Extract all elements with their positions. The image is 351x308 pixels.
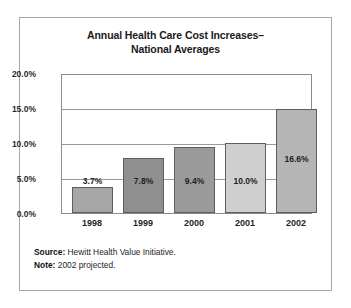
source-note: Source: Hewitt Health Value Initiative. [34,246,314,259]
y-axis-tick-5: 5.0% [0,174,36,184]
bar-2000[interactable]: 9.4% [174,147,215,213]
bar-value-label-1999: 7.8% [134,176,153,186]
bar-1998[interactable]: 3.7% [72,187,113,213]
bar-value-label-2001: 10.0% [233,176,257,186]
bar-value-label-1998: 3.7% [83,176,102,186]
bar-2002[interactable]: 16.6% [276,109,317,213]
x-axis-tick-2000: 2000 [184,218,204,228]
footnotes: Source: Hewitt Health Value Initiative. … [34,246,314,272]
y-axis-tick-0: 0.0% [0,209,36,219]
x-axis-tick-1999: 1999 [133,218,153,228]
projection-note: Note: 2002 projected. [34,259,314,272]
x-axis-tick-2001: 2001 [235,218,255,228]
x-axis-tick-2002: 2002 [286,218,306,228]
plot-area: 3.7% 7.8% 9.4% 10.0% 16.6% [61,74,312,214]
note-label: Note: [34,260,55,270]
bars-layer: 3.7% 7.8% 9.4% 10.0% 16.6% [62,75,311,213]
y-axis-tick-10: 10.0% [0,139,36,149]
bar-1999[interactable]: 7.8% [123,158,164,213]
source-text: Hewitt Health Value Initiative. [68,247,176,257]
y-axis-tick-20: 20.0% [0,69,36,79]
bar-2001[interactable]: 10.0% [225,143,266,213]
x-axis-tick-1998: 1998 [82,218,102,228]
y-axis-tick-15: 15.0% [0,104,36,114]
bar-value-label-2002: 16.6% [284,154,308,164]
source-label: Source: [34,247,65,257]
note-text: 2002 projected. [58,260,116,270]
figure-frame: Annual Health Care Cost Increases– Natio… [19,17,332,291]
bar-value-label-2000: 9.4% [185,176,204,186]
